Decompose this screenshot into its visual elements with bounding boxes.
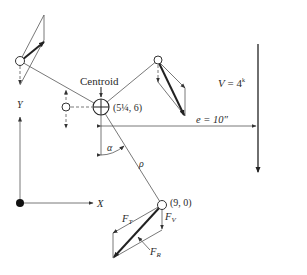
bolt-middle-left <box>62 103 70 111</box>
torsion-force-arrow <box>113 206 160 233</box>
x-axis-label: X <box>96 198 104 209</box>
torsion-arrow-top-right <box>159 62 185 88</box>
centroid-coordinates: (5¼, 6) <box>113 102 142 114</box>
bolt-top-left <box>16 57 25 66</box>
coordinate-axes <box>16 117 93 207</box>
y-axis-label: Y <box>17 99 24 110</box>
diagram-svg: Centroid (5¼, 6) V = 4k e = 10″ α ρ Y X … <box>0 0 307 275</box>
top-left-bolt-forces <box>16 15 45 85</box>
bolt-critical <box>158 201 167 210</box>
fv-label: FV <box>164 211 176 224</box>
load-label: V = 4k <box>218 77 245 89</box>
origin-dot <box>16 199 24 207</box>
critical-bolt-coordinates: (9, 0) <box>170 197 192 209</box>
ft-label: FT <box>121 213 133 226</box>
top-right-bolt-forces <box>154 56 185 116</box>
critical-bolt-forces <box>113 201 167 259</box>
resultant-arrow-top-right <box>159 63 184 115</box>
centroid-label: Centroid <box>80 75 119 87</box>
fr-label: FR <box>149 246 161 259</box>
parallelogram-edge <box>20 15 44 61</box>
resultant-pointer <box>138 237 150 250</box>
alpha-label: α <box>107 142 113 153</box>
bolt-group-diagram: Centroid (5¼, 6) V = 4k e = 10″ α ρ Y X … <box>0 0 307 275</box>
eccentricity-label: e = 10″ <box>196 114 228 125</box>
alpha-arc <box>101 146 124 155</box>
middle-left-bolt-forces <box>62 90 92 128</box>
bolt-top-right <box>154 56 162 64</box>
rho-label: ρ <box>138 158 144 169</box>
rho-line <box>101 107 162 205</box>
